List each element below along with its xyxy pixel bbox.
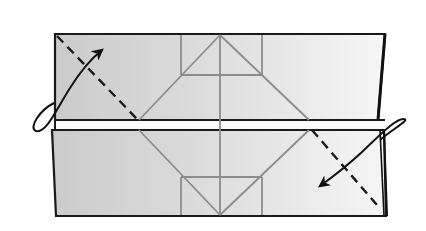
origami-diagram (0, 0, 426, 231)
diagram-canvas (0, 0, 426, 231)
